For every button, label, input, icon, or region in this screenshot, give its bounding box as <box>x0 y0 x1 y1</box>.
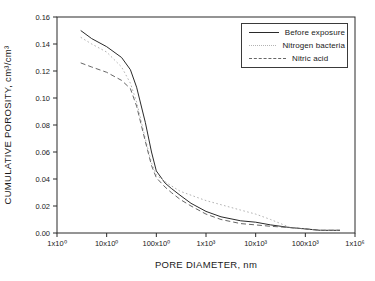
y-axis-tick-label: 0.06 <box>35 148 50 157</box>
dashed-line-sample-icon <box>249 58 286 59</box>
legend: Before exposure Nitrogen bacteria Nitric… <box>241 23 348 68</box>
y-axis-tick-label: 0.08 <box>35 121 50 130</box>
x-axis-title: PORE DIAMETER, nm <box>155 259 257 270</box>
x-axis-tick-label: 1x10³ <box>197 239 216 248</box>
x-axis-tick-label: 1x10⁰ <box>47 239 66 248</box>
y-axis-tick-label: 0.10 <box>35 94 50 103</box>
y-axis-tick-label: 0.04 <box>35 175 50 184</box>
legend-item-nitrogen-bacteria: Nitrogen bacteria <box>249 39 345 52</box>
dotted-line-sample-icon <box>249 45 276 46</box>
x-axis-tick-label: 100x10⁰ <box>143 239 171 248</box>
y-axis-tick-label: 0.14 <box>35 40 50 49</box>
x-axis-tick-label: 10x10³ <box>244 239 267 248</box>
x-axis-tick-label: 100x10³ <box>292 239 320 248</box>
y-axis-tick-label: 0.12 <box>35 67 50 76</box>
y-axis-tick-label: 0.02 <box>35 202 50 211</box>
curve-nitric-acid <box>81 63 340 230</box>
y-axis-tick-label: 0.16 <box>35 13 50 22</box>
legend-item-nitric-acid: Nitric acid <box>249 52 345 65</box>
y-axis-title: CUMULATIVE POROSITY, cm³/cm³ <box>2 45 13 204</box>
solid-line-sample-icon <box>249 32 279 33</box>
legend-label-nitrogen-bacteria: Nitrogen bacteria <box>282 41 345 50</box>
legend-label-nitric-acid: Nitric acid <box>292 54 328 63</box>
y-axis-tick-label: 0.00 <box>35 229 50 238</box>
porosity-figure: 1x10⁰10x10⁰100x10⁰1x10³10x10³100x10³1x10… <box>0 0 375 281</box>
x-axis-tick-label: 10x10⁰ <box>95 239 118 248</box>
legend-label-before-exposure: Before exposure <box>285 28 345 37</box>
legend-item-before-exposure: Before exposure <box>249 26 345 39</box>
x-axis-tick-label: 1x10⁶ <box>345 239 364 248</box>
